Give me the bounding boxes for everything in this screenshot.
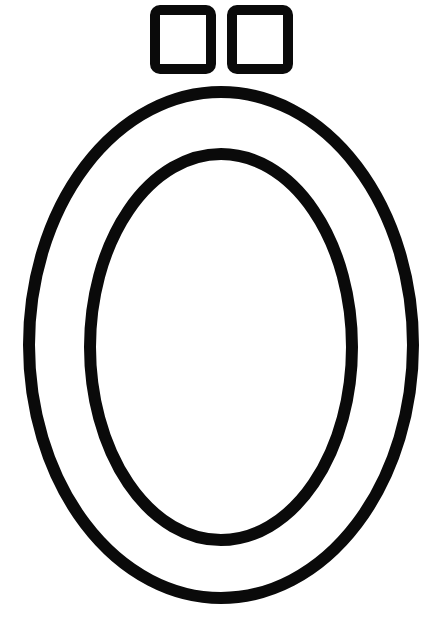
artboard xyxy=(0,0,444,621)
line-art-canvas xyxy=(0,0,444,621)
